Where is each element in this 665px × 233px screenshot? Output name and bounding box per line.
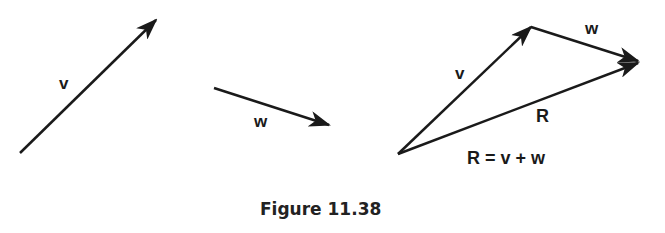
figure-canvas: v w v w R R = v + w Figure 11.38 xyxy=(0,0,665,233)
vector-v-arrow xyxy=(20,20,156,153)
equation-label: R = v + w xyxy=(467,148,545,169)
triangle-r-arrow xyxy=(398,63,638,154)
vector-w-arrow xyxy=(214,88,329,125)
label-w-triangle: w xyxy=(585,19,598,39)
label-r-triangle: R xyxy=(536,106,549,127)
triangle-v-arrow xyxy=(398,27,531,154)
label-v-triangle: v xyxy=(455,64,464,84)
label-w-middle: w xyxy=(254,112,267,132)
label-v-left: v xyxy=(59,74,68,94)
figure-caption: Figure 11.38 xyxy=(260,199,381,219)
